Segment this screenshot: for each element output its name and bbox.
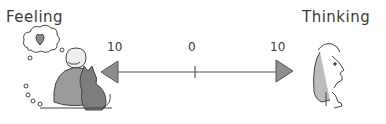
feeling-thinking-scale bbox=[101, 60, 293, 83]
left-arrowhead-icon bbox=[101, 61, 118, 83]
diagram-canvas bbox=[0, 0, 386, 124]
feeling-person-icon bbox=[24, 25, 113, 110]
right-arrowhead-icon bbox=[276, 60, 293, 82]
thinking-person-icon bbox=[314, 44, 344, 108]
